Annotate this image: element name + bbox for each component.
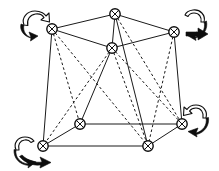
rotation-arrow-top-right-head xyxy=(185,10,204,22)
rotation-arrow-top-right xyxy=(185,10,208,41)
node-bottom-inner xyxy=(75,119,85,129)
node-bottom-left xyxy=(38,141,48,151)
edge-top-front-to-bottom-right xyxy=(112,48,182,124)
edge-top-left-to-bottom-left xyxy=(43,29,52,146)
edge-top-left-to-bottom-inner xyxy=(52,29,80,124)
rotation-arrow-top-left-head xyxy=(23,11,49,26)
edge-top-left-to-top-center xyxy=(52,14,115,29)
rotation-arrow-bottom-right xyxy=(184,105,209,137)
edge-bottom-left-to-bottom-inner xyxy=(43,124,80,146)
edge-top-right-to-bottom-right xyxy=(174,32,182,124)
edge-top-center-to-top-right xyxy=(115,14,174,32)
node-bottom-right xyxy=(177,119,187,129)
edge-top-right-to-bottom-front xyxy=(148,32,174,146)
node-top-right xyxy=(169,27,179,37)
node-top-center xyxy=(110,9,120,19)
edge-top-front-to-bottom-left xyxy=(43,48,112,146)
rotation-arrow-top-right-tail xyxy=(188,21,207,41)
node-top-front xyxy=(107,43,117,53)
node-top-left xyxy=(47,24,57,34)
edge-group-solid xyxy=(43,14,182,146)
rotation-arrow-bottom-left-head xyxy=(15,137,34,150)
node-group xyxy=(38,9,187,151)
diagram-canvas xyxy=(0,0,219,171)
edge-top-front-to-bottom-front xyxy=(112,48,148,146)
edge-group-dashed xyxy=(43,14,182,146)
rotation-arrow-top-left xyxy=(21,11,50,41)
rotation-arrow-top-left-tail xyxy=(21,24,38,41)
edge-bottom-front-to-bottom-right xyxy=(148,124,182,146)
rotating-cube-graph-svg xyxy=(0,0,219,171)
node-bottom-front xyxy=(143,141,153,151)
edge-top-left-to-top-front xyxy=(52,29,112,48)
rotation-arrow-bottom-right-head xyxy=(184,105,207,118)
rotation-arrow-bottom-right-tail xyxy=(188,118,209,138)
